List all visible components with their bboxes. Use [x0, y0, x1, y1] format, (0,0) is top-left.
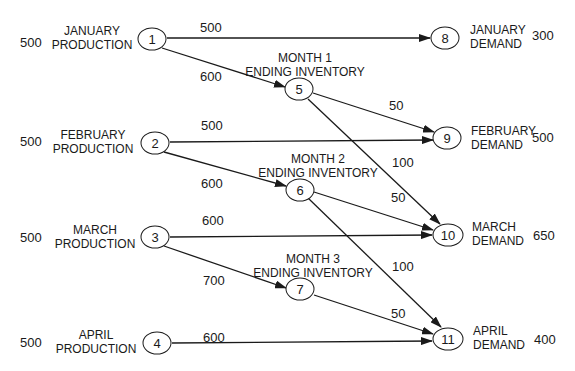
arc-label-1-8: 500 — [200, 21, 222, 35]
node-11: 11 — [433, 328, 464, 351]
demand-amount-10: 650 — [533, 229, 555, 243]
inventory-label-6: MONTH 2 ENDING INVENTORY — [258, 152, 378, 180]
demand-label-9: FEBRUARY DEMAND — [471, 124, 536, 152]
node-3: 3 — [141, 226, 170, 249]
node-1: 1 — [138, 28, 167, 51]
inventory-label-7: MONTH 3 ENDING INVENTORY — [253, 252, 373, 280]
arc-label-5-10: 100 — [392, 156, 414, 170]
arc-5-9 — [313, 93, 434, 132]
arc-label-2-9: 500 — [201, 119, 223, 133]
arc-label-4-11: 600 — [203, 331, 225, 345]
node-5: 5 — [285, 78, 314, 101]
arc-label-3-7: 700 — [203, 274, 225, 288]
demand-amount-9: 500 — [532, 131, 554, 145]
arc-label-1-5: 600 — [200, 70, 222, 84]
supply-label-2: FEBRUARY PRODUCTION — [53, 128, 134, 156]
arc-3-10 — [170, 235, 432, 237]
supply-amount-4: 500 — [20, 336, 42, 350]
demand-amount-11: 400 — [534, 333, 556, 347]
node-7: 7 — [286, 278, 315, 301]
arc-6-10 — [314, 192, 433, 230]
inventory-label-5: MONTH 1 ENDING INVENTORY — [245, 51, 365, 79]
supply-amount-2: 500 — [20, 135, 42, 149]
node-10: 10 — [433, 224, 464, 247]
node-6: 6 — [286, 179, 315, 202]
demand-label-10: MARCH DEMAND — [472, 220, 524, 248]
supply-label-4: APRIL PRODUCTION — [56, 328, 137, 356]
demand-amount-8: 300 — [532, 29, 554, 43]
arc-label-2-6: 600 — [201, 177, 223, 191]
node-9: 9 — [433, 127, 462, 150]
supply-amount-3: 500 — [20, 231, 42, 245]
supply-label-3: MARCH PRODUCTION — [55, 223, 136, 251]
demand-label-8: JANUARY DEMAND — [470, 23, 526, 51]
node-2: 2 — [141, 132, 170, 155]
network-diagram: 500 500 500 500 JANUARY PRODUCTION FEBRU… — [0, 0, 575, 371]
arc-2-9 — [170, 140, 433, 142]
arc-label-6-11: 100 — [392, 260, 414, 274]
arc-label-6-10: 50 — [391, 191, 405, 205]
arc-label-5-9: 50 — [389, 99, 403, 113]
node-8: 8 — [431, 27, 460, 50]
node-4: 4 — [143, 332, 172, 355]
supply-amount-1: 500 — [20, 36, 42, 50]
arc-7-11 — [314, 295, 433, 334]
demand-label-11: APRIL DEMAND — [473, 324, 525, 352]
arc-label-3-10: 600 — [202, 214, 224, 228]
supply-label-1: JANUARY PRODUCTION — [52, 24, 133, 52]
arc-label-7-11: 50 — [391, 307, 405, 321]
